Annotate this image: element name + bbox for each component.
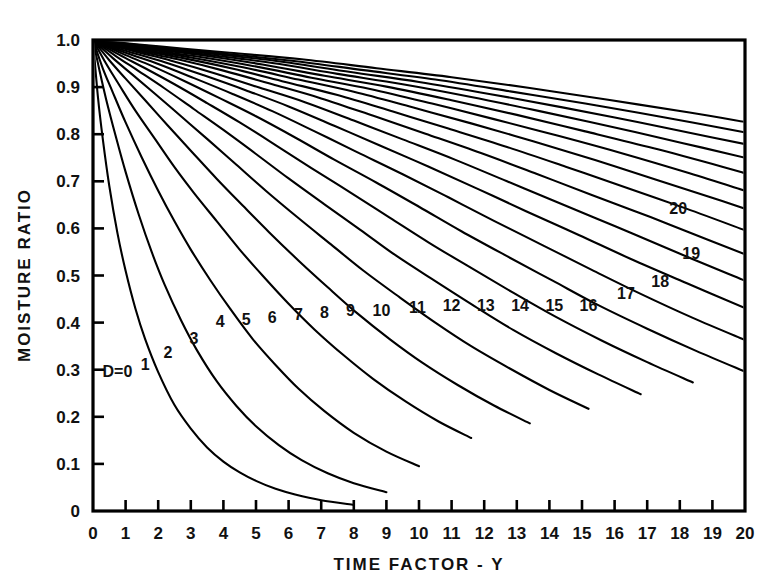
curve-label-14: 14 (511, 297, 529, 314)
x-axis-tick-labels: 01234567891011121314151617181920 (88, 524, 754, 543)
curve-label-15: 15 (545, 297, 563, 314)
curve-label-12: 12 (443, 297, 461, 314)
x-tick-label: 6 (284, 524, 293, 543)
x-tick-label: 0 (88, 524, 97, 543)
y-tick-label: 0 (71, 502, 80, 521)
y-tick-label: 0.9 (56, 78, 80, 97)
x-axis-title: TIME FACTOR - Y (333, 555, 504, 574)
moisture-ratio-chart: 00.10.20.30.40.50.60.70.80.91.0 01234567… (0, 0, 778, 587)
curve-label-13: 13 (477, 297, 495, 314)
x-tick-label: 8 (349, 524, 358, 543)
curve-label-d0: D=0 (103, 363, 133, 380)
curve-label-18: 18 (651, 273, 669, 290)
chart-figure: 00.10.20.30.40.50.60.70.80.91.0 01234567… (0, 0, 778, 587)
y-tick-label: 0.8 (56, 125, 80, 144)
x-tick-label: 3 (186, 524, 195, 543)
y-tick-label: 0.6 (56, 219, 80, 238)
x-tick-label: 13 (507, 524, 526, 543)
curve-label-3: 3 (190, 330, 199, 347)
x-tick-label: 12 (475, 524, 494, 543)
y-tick-label: 1.0 (56, 31, 80, 50)
curve-label-16: 16 (580, 297, 598, 314)
y-tick-label: 0.3 (56, 361, 80, 380)
y-tick-label: 0.5 (56, 267, 80, 286)
x-tick-label: 4 (219, 524, 229, 543)
x-tick-label: 1 (121, 524, 130, 543)
x-tick-label: 2 (153, 524, 162, 543)
curve-label-1: 1 (141, 356, 150, 373)
x-tick-label: 14 (540, 524, 559, 543)
curve-label-4: 4 (216, 313, 225, 330)
y-tick-label: 0.4 (56, 314, 80, 333)
curve-label-2: 2 (164, 344, 173, 361)
x-tick-label: 9 (382, 524, 391, 543)
y-tick-label: 0.1 (56, 455, 80, 474)
curve-label-9: 9 (346, 302, 355, 319)
y-tick-label: 0.2 (56, 408, 80, 427)
x-tick-label: 18 (670, 524, 689, 543)
x-tick-label: 15 (573, 524, 592, 543)
x-tick-label: 17 (638, 524, 657, 543)
x-tick-label: 16 (605, 524, 624, 543)
x-tick-label: 11 (443, 524, 461, 543)
curve-label-6: 6 (268, 309, 277, 326)
curve-label-17: 17 (617, 285, 635, 302)
x-tick-label: 10 (410, 524, 429, 543)
curve-label-7: 7 (294, 306, 303, 323)
curve-label-5: 5 (242, 311, 251, 328)
x-tick-label: 19 (703, 524, 722, 543)
x-tick-label: 20 (736, 524, 755, 543)
curve-label-11: 11 (409, 299, 426, 316)
x-tick-label: 5 (251, 524, 260, 543)
curve-label-19: 19 (682, 245, 700, 262)
y-tick-label: 0.7 (56, 172, 80, 191)
curve-label-10: 10 (373, 302, 391, 319)
curve-label-20: 20 (669, 200, 687, 217)
curve-label-8: 8 (320, 304, 329, 321)
y-axis-title: MOISTURE RATIO (15, 188, 34, 362)
x-tick-label: 7 (316, 524, 325, 543)
